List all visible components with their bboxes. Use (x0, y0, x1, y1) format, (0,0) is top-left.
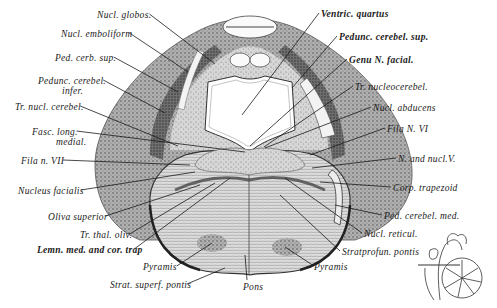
label-tr-nucl-cerebel: Tr. nucl. cerebel. (15, 102, 84, 112)
tegmentum (195, 148, 305, 175)
label-text: Ventric. quartus (321, 9, 389, 19)
anatomical-figure: Nucl. globos.Nucl. emboliformPed. cerb. … (0, 0, 497, 308)
label-fila-n-vi: Fila N. VI (387, 124, 428, 134)
label-ped-cerb-sup: Ped. cerb. sup. (55, 53, 116, 63)
label-text: Pyramis (143, 262, 177, 272)
label-pyramis-left: Pyramis (143, 262, 177, 272)
orientation-inset-sketch (418, 234, 482, 300)
label-ventric-quartus: Ventric. quartus (321, 9, 389, 19)
label-oliva-superior: Oliva superior (48, 212, 108, 222)
pyramis-right-shape (272, 238, 302, 256)
label-text: Ped. cerebel. med. (384, 211, 459, 221)
label-pyramis-right: Pyramis (314, 262, 348, 272)
label-text: Tr. nucleocerebel. (355, 82, 428, 92)
label-text-line2: medial. (32, 137, 86, 147)
label-text: Genu N. facial. (349, 55, 414, 65)
label-text: Nucl. globos. (97, 10, 151, 20)
label-nucl-reticul: Nucl. reticul. (364, 229, 418, 239)
label-text: Fila n. VII (21, 156, 64, 166)
label-text: Oliva superior (48, 212, 108, 222)
label-text-line2: infer. (38, 86, 106, 96)
label-text: Nucl. emboliform (61, 29, 132, 39)
label-strat-superf-pontis: Strat. superf. pontis (110, 280, 191, 290)
label-nucleus-facialis: Nucleus facialis (18, 186, 84, 196)
nodule-left (230, 53, 250, 67)
label-nucl-globos: Nucl. globos. (97, 10, 151, 20)
label-pedunc-cerebel-sup: Pedunc. cerebel. sup. (339, 32, 428, 42)
label-text: Stratprofun. pontis (342, 247, 419, 257)
label-text: Pons (243, 282, 263, 292)
label-pedunc-cerebel-infer: Pedunc. cerebel.infer. (38, 76, 106, 96)
label-text: Nucl. reticul. (364, 229, 418, 239)
nodule-right (250, 53, 270, 67)
label-text: Tr. thal. oliv. (80, 230, 132, 240)
label-text: Pedunc. cerebel. (38, 76, 106, 86)
label-text: Lemn. med. and cor. trap (37, 245, 143, 255)
label-nucl-emboliform: Nucl. emboliform (61, 29, 132, 39)
label-text: Corp. trapezoid (393, 183, 458, 193)
label-text: Nucl. abducens (373, 103, 436, 113)
label-nucl-abducens: Nucl. abducens (373, 103, 436, 113)
label-text: Fasc. long. (32, 127, 86, 137)
label-text: Pyramis (314, 262, 348, 272)
label-text: Strat. superf. pontis (110, 280, 191, 290)
label-text: Ped. cerb. sup. (55, 53, 116, 63)
label-text: N. and nucl.V. (398, 154, 456, 164)
label-fila-n-vii: Fila n. VII (21, 156, 64, 166)
label-tr-thal-oliv: Tr. thal. oliv. (80, 230, 132, 240)
label-genu-n-facial: Genu N. facial. (349, 55, 414, 65)
label-corp-trapezoid: Corp. trapezoid (393, 183, 458, 193)
label-ped-cerebel-med: Ped. cerebel. med. (384, 211, 459, 221)
label-text: Nucleus facialis (18, 186, 84, 196)
label-stratprofun-pontis: Stratprofun. pontis (342, 247, 419, 257)
label-pons: Pons (243, 282, 263, 292)
label-text: Tr. nucl. cerebel. (15, 102, 84, 112)
label-n-and-nucl-v: N. and nucl.V. (398, 154, 456, 164)
label-text: Fila N. VI (387, 124, 428, 134)
label-lemn-med-cor-trap: Lemn. med. and cor. trap (37, 245, 143, 255)
label-text: Pedunc. cerebel. sup. (339, 32, 428, 42)
label-fasc-long-medial: Fasc. long.medial. (32, 127, 86, 147)
label-tr-nucleocerebel: Tr. nucleocerebel. (355, 82, 428, 92)
